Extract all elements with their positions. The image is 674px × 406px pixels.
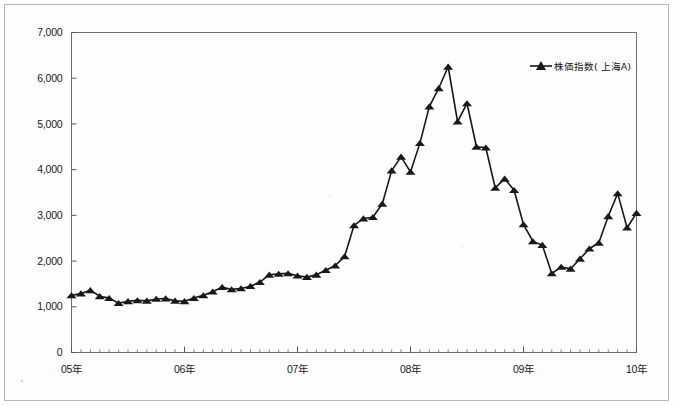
x-tick-label: 05年	[61, 363, 82, 375]
y-tick-label: 0	[57, 346, 63, 358]
x-tick-label: 07年	[287, 363, 308, 375]
stock-index-line-chart: 01,0002,0003,0004,0005,0006,0007,000 05年…	[0, 0, 674, 406]
legend-entry-label: 株価指数( 上海A)	[554, 61, 631, 72]
x-tick-label: 09年	[513, 363, 534, 375]
x-tick-label: 10年	[626, 363, 647, 375]
x-tick-label: 08年	[400, 363, 421, 375]
chart-figure: 01,0002,0003,0004,0005,0006,0007,000 05年…	[0, 0, 674, 406]
y-tick-label: 4,000	[37, 163, 63, 175]
y-tick-label: 6,000	[37, 72, 63, 84]
y-tick-label: 5,000	[37, 118, 63, 130]
y-tick-label: 7,000	[37, 26, 63, 38]
y-tick-label: 3,000	[37, 209, 63, 221]
y-tick-label: 2,000	[37, 255, 63, 267]
y-tick-label: 1,000	[37, 300, 63, 312]
chart-legend: 株価指数( 上海A)	[525, 56, 635, 76]
x-tick-label: 06年	[174, 363, 195, 375]
